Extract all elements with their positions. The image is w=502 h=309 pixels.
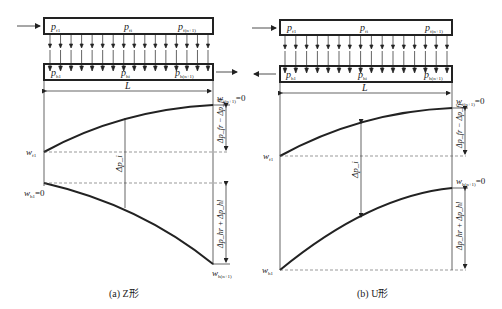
caption-a: (a) Z形: [109, 288, 139, 300]
distribution-arrows: [283, 35, 449, 73]
wh-end-label: wh(n+1)=0: [456, 176, 486, 187]
lower-pressure-diff-label: Δp_hr + Δp_hl: [216, 199, 225, 249]
delta-pi-label: Δp_i: [350, 161, 360, 179]
upper-pressure-diff-label: Δp_fr − Δp_fi: [455, 103, 464, 149]
panel-b-u-type: pf1 pfi pf(n+1) ph1 phi ph(n+1) L Δp_i Δ…: [252, 20, 486, 300]
svg-text:ph(n+1): ph(n+1): [423, 69, 443, 81]
panel-a-z-type: pf1 pfi pf(n+1) ph1 phi ph(n+1) L: [17, 18, 246, 300]
feed-velocity-curve: [44, 105, 213, 152]
svg-text:ph(n+1): ph(n+1): [174, 67, 194, 79]
wh-end-label: wh(n+1): [212, 268, 232, 279]
wf-end-label: wf(n+1)=0: [217, 93, 246, 104]
upper-pressure-diff-label: Δp_fr − Δp_fi: [216, 98, 225, 144]
wf1-label: wf1: [26, 147, 37, 158]
header-velocity-curve: [44, 183, 213, 264]
figure-canvas: pf1 pfi pf(n+1) ph1 phi ph(n+1) L: [0, 0, 502, 309]
lower-pressure-diff-label: Δp_hr + Δp_hl: [455, 201, 464, 251]
length-label: L: [361, 82, 368, 93]
svg-text:phi: phi: [357, 69, 368, 81]
header-velocity-curve: [280, 188, 452, 270]
svg-text:phi: phi: [120, 67, 131, 79]
wh1-label: wh1=0: [24, 188, 45, 199]
delta-pi-label: Δp_i: [114, 155, 124, 173]
feed-velocity-curve: [280, 108, 452, 156]
wh1-label: wh1: [262, 265, 274, 276]
distribution-arrows: [48, 34, 210, 71]
caption-b: (b) U形: [357, 288, 388, 300]
bottom-channel-labels: ph1 phi ph(n+1): [285, 69, 443, 81]
length-label: L: [124, 80, 131, 91]
wf1-label: wf1: [263, 151, 274, 162]
wf-end-label: wf(n+1)=0: [456, 96, 485, 107]
